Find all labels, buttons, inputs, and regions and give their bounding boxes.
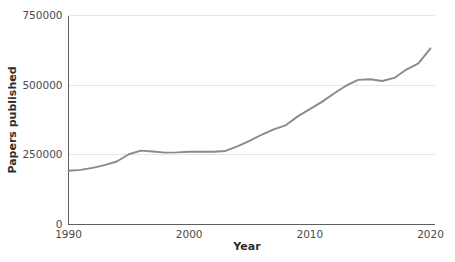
axes xyxy=(69,16,435,225)
y-axis-title: Papers published xyxy=(6,66,19,173)
x-tick-label-2020: 2020 xyxy=(417,228,444,240)
x-axis-tick-labels: 1990200020102020 xyxy=(55,228,444,240)
x-tick-label-2010: 2010 xyxy=(296,228,323,240)
x-axis-title: Year xyxy=(232,240,261,253)
y-tick-label-750000: 750000 xyxy=(22,9,62,21)
y-tick-label-500000: 500000 xyxy=(22,79,62,91)
x-tick-label-2000: 2000 xyxy=(176,228,203,240)
gridlines xyxy=(69,16,435,155)
line-chart: 0250000500000750000 1990200020102020 Yea… xyxy=(0,0,455,262)
y-axis-tick-labels: 0250000500000750000 xyxy=(22,9,62,230)
chart-container: 0250000500000750000 1990200020102020 Yea… xyxy=(0,0,455,262)
y-tick-label-250000: 250000 xyxy=(22,148,62,160)
series-line-papers-published xyxy=(69,48,431,170)
x-tick-label-1990: 1990 xyxy=(55,228,82,240)
data-series xyxy=(69,48,431,170)
